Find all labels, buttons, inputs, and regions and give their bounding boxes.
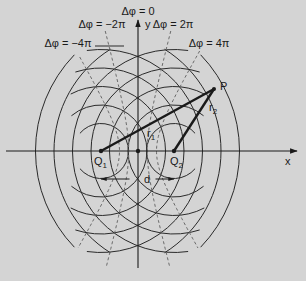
x-axis-label: x: [285, 155, 291, 167]
label-dphi-minus-2pi: Δφ = −2π: [78, 18, 126, 30]
y-axis-label: y: [145, 18, 151, 30]
origin-point: [136, 149, 140, 153]
label-dphi-minus-4pi: Δφ = −4π: [44, 37, 92, 49]
hyperbola-plus4pi: [157, 51, 200, 248]
r2-line: [174, 89, 214, 151]
source-q1-point: [99, 149, 103, 153]
r2-label: r2: [209, 101, 218, 116]
q2-label: Q2: [170, 155, 184, 170]
label-dphi-0: Δφ = 0: [121, 5, 154, 17]
label-dphi-4pi: Δφ = 4π: [189, 37, 230, 49]
point-p-label: P: [220, 80, 227, 92]
label-dphi-2pi: Δφ = 2π: [153, 18, 194, 30]
d-label: d: [144, 173, 150, 185]
two-source-interference-diagram: Δφ = 0 Δφ = −2π Δφ = 2π Δφ = −4π Δφ = 4π…: [0, 0, 306, 281]
source-q2-point: [172, 149, 176, 153]
point-p: [212, 87, 216, 91]
q1-label: Q1: [94, 155, 108, 170]
